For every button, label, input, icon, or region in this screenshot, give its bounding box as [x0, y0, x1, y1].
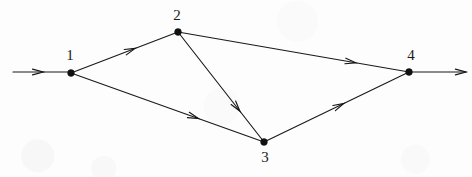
graph-figure: 1234 [0, 0, 472, 177]
graph-canvas [0, 0, 472, 177]
node-label-1: 1 [59, 48, 81, 63]
node-label-2: 2 [166, 8, 188, 23]
node-1[interactable] [68, 70, 75, 77]
edge-3-to-4 [264, 72, 409, 142]
edge-layer [71, 32, 409, 142]
edge-2-to-3 [178, 32, 264, 142]
edge-3-to-4-arrow-icon [333, 104, 344, 111]
node-3[interactable] [261, 139, 268, 146]
node-4[interactable] [406, 69, 413, 76]
node-label-4: 4 [400, 48, 422, 63]
node-2[interactable] [175, 29, 182, 36]
node-layer [68, 29, 413, 146]
edge-2-to-4 [178, 32, 409, 72]
edge-1-to-2 [71, 32, 178, 73]
node-label-3: 3 [254, 150, 276, 165]
